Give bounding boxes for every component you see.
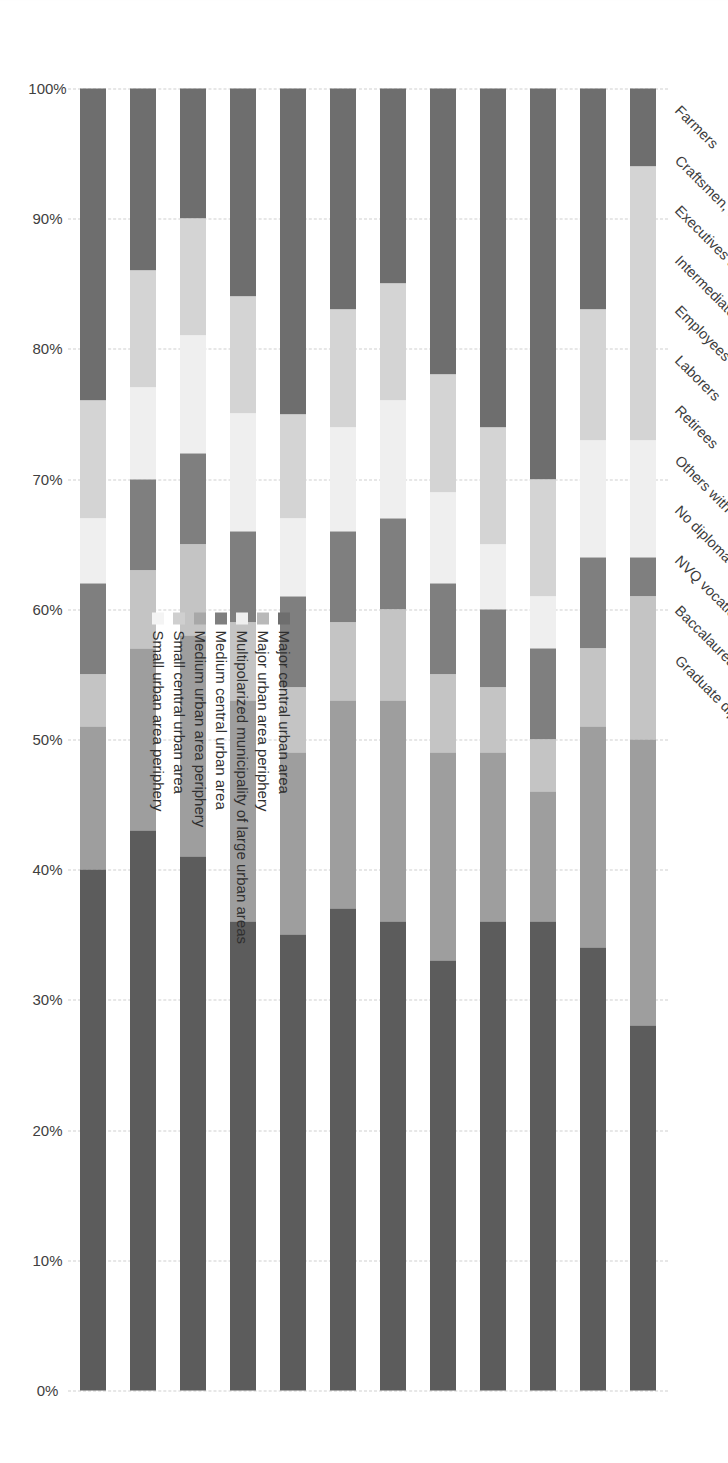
axis-tick-label: 100% bbox=[28, 80, 66, 97]
axis-tick-label: 20% bbox=[32, 1121, 62, 1138]
legend-label: Multipolarized municipality of large urb… bbox=[232, 630, 252, 944]
bar-segment bbox=[80, 400, 106, 517]
bar-segment bbox=[280, 414, 306, 518]
gridline bbox=[68, 999, 668, 1000]
category-label: Graduate diploma bbox=[672, 652, 728, 745]
legend-label: Major urban area periphery bbox=[253, 630, 273, 811]
bar-segment bbox=[630, 557, 656, 596]
bar-segment bbox=[330, 622, 356, 700]
bar-segment bbox=[180, 218, 206, 335]
legend-swatch-icon bbox=[257, 612, 269, 624]
legend-swatch-icon bbox=[278, 612, 290, 624]
bar-segment bbox=[630, 1025, 656, 1390]
bar-row bbox=[80, 88, 106, 1390]
bar-segment bbox=[530, 88, 556, 479]
bar-segment bbox=[480, 544, 506, 609]
legend-item: Medium urban area periphery bbox=[190, 612, 210, 944]
bar-segment bbox=[380, 283, 406, 400]
legend-item: Major central urban area bbox=[274, 612, 294, 944]
bar-segment bbox=[230, 296, 256, 413]
legend-swatch-icon bbox=[194, 612, 206, 624]
legend-swatch-icon bbox=[173, 612, 185, 624]
legend-swatch-icon bbox=[215, 612, 227, 624]
bar-segment bbox=[230, 413, 256, 530]
bar-segment bbox=[130, 479, 156, 570]
bar-segment bbox=[630, 739, 656, 1025]
bar-segment bbox=[430, 752, 456, 960]
bar-segment bbox=[380, 400, 406, 517]
bar-segment bbox=[230, 88, 256, 296]
bar-segment bbox=[380, 700, 406, 921]
bar-segment bbox=[480, 88, 506, 427]
bar-segment bbox=[580, 726, 606, 947]
bar-segment bbox=[380, 88, 406, 283]
bar-segment bbox=[430, 674, 456, 752]
bar-row bbox=[630, 88, 656, 1390]
bar-segment bbox=[330, 908, 356, 1390]
bar-segment bbox=[80, 583, 106, 674]
legend-swatch-icon bbox=[152, 612, 164, 624]
bar-segment bbox=[430, 583, 456, 674]
bar-segment bbox=[480, 752, 506, 921]
bar-segment bbox=[530, 791, 556, 921]
gridline bbox=[68, 88, 668, 89]
bar-segment bbox=[530, 739, 556, 791]
axis-tick-label: 90% bbox=[32, 210, 62, 227]
bar-row bbox=[480, 88, 506, 1390]
bar-row bbox=[330, 88, 356, 1390]
bar-segment bbox=[330, 309, 356, 426]
bar-segment bbox=[280, 518, 306, 596]
axis-tick-label: 50% bbox=[32, 731, 62, 748]
gridline bbox=[68, 348, 668, 349]
bar-segment bbox=[530, 648, 556, 739]
bar-segment bbox=[580, 309, 606, 439]
bar-segment bbox=[530, 479, 556, 596]
legend-item: Multipolarized municipality of large urb… bbox=[232, 612, 252, 944]
category-label: Retirees bbox=[672, 402, 721, 451]
legend-label: Small central urban area bbox=[169, 630, 189, 793]
axis-tick-label: 10% bbox=[32, 1251, 62, 1268]
axis-tick-label: 30% bbox=[32, 991, 62, 1008]
gridline bbox=[68, 1390, 668, 1391]
bar-segment bbox=[230, 921, 256, 1390]
legend-label: Major central urban area bbox=[274, 630, 294, 793]
bar-segment bbox=[530, 921, 556, 1390]
bar-segment bbox=[180, 453, 206, 544]
axis-tick-label: 80% bbox=[32, 340, 62, 357]
legend-item: Medium central urban area bbox=[211, 612, 231, 944]
bar-segment bbox=[580, 88, 606, 309]
gridline bbox=[68, 1130, 668, 1131]
bar-segment bbox=[430, 374, 456, 491]
bar-segment bbox=[280, 934, 306, 1390]
legend-item: Major urban area periphery bbox=[253, 612, 273, 944]
bar-segment bbox=[430, 960, 456, 1390]
bar-segment bbox=[380, 518, 406, 609]
bar-segment bbox=[80, 869, 106, 1390]
legend-item: Small central urban area bbox=[169, 612, 189, 944]
axis-tick-label: 0% bbox=[37, 1382, 59, 1399]
bar-segment bbox=[130, 387, 156, 478]
bar-row bbox=[530, 88, 556, 1390]
bar-segment bbox=[580, 440, 606, 557]
gridline bbox=[68, 479, 668, 480]
scanned-page: FarmersCraftsmen, traders and entreprene… bbox=[0, 0, 728, 1463]
legend-swatch-icon bbox=[236, 612, 248, 624]
category-label: Laborers bbox=[672, 352, 724, 404]
category-axis: FarmersCraftsmen, traders and entreprene… bbox=[670, 88, 728, 1390]
bar-segment bbox=[80, 518, 106, 583]
bar-segment bbox=[380, 921, 406, 1390]
bar-segment bbox=[580, 648, 606, 726]
bar-segment bbox=[430, 492, 456, 583]
axis-tick-label: 60% bbox=[32, 600, 62, 617]
legend-label: Small urban area periphery bbox=[148, 630, 168, 811]
bar-segment bbox=[130, 88, 156, 270]
bar-segment bbox=[330, 531, 356, 622]
gridline bbox=[68, 218, 668, 219]
bar-segment bbox=[330, 427, 356, 531]
bar-segment bbox=[180, 335, 206, 452]
bar-segment bbox=[180, 88, 206, 218]
bar-segment bbox=[330, 88, 356, 309]
bar-segment bbox=[330, 700, 356, 908]
bar-segment bbox=[130, 270, 156, 387]
bar-segment bbox=[630, 88, 656, 166]
